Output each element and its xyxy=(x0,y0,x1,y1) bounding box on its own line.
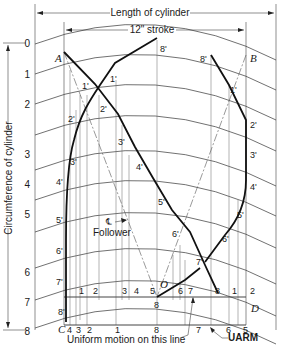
svg-text:5': 5' xyxy=(237,210,244,220)
svg-text:4': 4' xyxy=(250,182,257,192)
cam-groove-curves xyxy=(64,38,246,322)
svg-text:2: 2 xyxy=(93,286,98,296)
point-O: O xyxy=(160,278,168,290)
svg-text:7: 7 xyxy=(196,325,201,335)
cam-development-diagram: Length of cylinder 12" stroke Circumfere… xyxy=(0,0,283,345)
svg-text:4: 4 xyxy=(24,179,30,190)
circumference-label: Circumference of cylinder xyxy=(3,121,14,235)
centerline-symbol: ℄ xyxy=(105,217,112,227)
svg-text:6': 6' xyxy=(56,246,63,256)
svg-text:6': 6' xyxy=(222,234,229,244)
svg-text:3': 3' xyxy=(250,150,257,160)
svg-text:2': 2' xyxy=(250,120,257,130)
svg-text:3': 3' xyxy=(118,137,125,147)
svg-text:3': 3' xyxy=(70,157,77,167)
svg-text:4': 4' xyxy=(136,162,143,172)
svg-text:3: 3 xyxy=(122,286,127,296)
point-labels: A B C D O xyxy=(54,52,259,335)
uarm-label: UARM xyxy=(228,332,258,343)
svg-text:8: 8 xyxy=(24,326,30,337)
svg-text:5': 5' xyxy=(56,215,63,225)
svg-text:5: 5 xyxy=(24,209,30,220)
svg-text:0: 0 xyxy=(24,38,30,49)
svg-text:4: 4 xyxy=(134,286,139,296)
stroke-label: 12" stroke xyxy=(130,24,175,35)
svg-text:7: 7 xyxy=(24,297,30,308)
point-C: C xyxy=(58,323,66,335)
svg-text:7': 7' xyxy=(56,277,63,287)
svg-text:5': 5' xyxy=(158,197,165,207)
svg-text:2': 2' xyxy=(100,104,107,114)
svg-text:6: 6 xyxy=(24,267,30,278)
svg-text:1: 1 xyxy=(24,69,30,80)
svg-text:8': 8' xyxy=(58,307,65,317)
svg-text:1: 1 xyxy=(79,286,84,296)
uniform-motion-label: Uniform motion on this line xyxy=(67,334,186,345)
left-curve-labels: 1' 2' 3' 4' 5' 6' 7' 8' xyxy=(56,81,89,317)
svg-text:6: 6 xyxy=(178,286,183,296)
svg-text:5: 5 xyxy=(150,286,155,296)
svg-text:2: 2 xyxy=(24,99,30,110)
svg-text:1': 1' xyxy=(230,85,237,95)
svg-text:1': 1' xyxy=(110,74,117,84)
svg-text:2: 2 xyxy=(250,286,255,296)
circumference-dimension: Circumference of cylinder xyxy=(3,43,26,330)
length-label: Length of cylinder xyxy=(111,7,191,18)
left-scale: 0 1 2 3 4 5 6 7 8 xyxy=(24,38,30,337)
svg-text:7: 7 xyxy=(188,286,193,296)
svg-text:2': 2' xyxy=(68,114,75,124)
follower-label: Follower xyxy=(93,227,131,238)
follower-centerlines xyxy=(64,52,246,297)
svg-text:7': 7' xyxy=(196,257,203,267)
svg-text:8': 8' xyxy=(200,54,207,64)
bottom-annotations: Uniform motion on this line UARM xyxy=(67,297,258,345)
svg-text:1': 1' xyxy=(82,81,89,91)
svg-text:4': 4' xyxy=(56,177,63,187)
svg-text:6': 6' xyxy=(172,229,179,239)
point-A: A xyxy=(54,52,62,64)
point-B: B xyxy=(250,52,257,64)
svg-text:8: 8 xyxy=(215,286,220,296)
svg-text:8': 8' xyxy=(160,44,167,54)
point-D: D xyxy=(250,302,259,314)
svg-text:1: 1 xyxy=(232,286,237,296)
center-8-label: 8 xyxy=(154,300,159,310)
svg-text:3: 3 xyxy=(24,149,30,160)
